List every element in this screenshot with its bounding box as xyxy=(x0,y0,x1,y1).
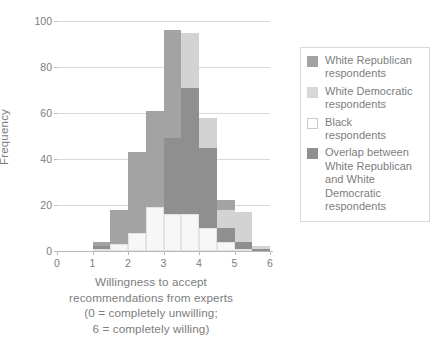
x-tick-mark xyxy=(199,251,200,255)
legend-label-line: respondents xyxy=(325,200,412,213)
chart-figure: Frequency 100806040200 0123456 Willingne… xyxy=(0,0,436,362)
y-tick-label: 100 xyxy=(20,16,52,26)
x-tick-mark xyxy=(128,251,129,255)
gridline xyxy=(57,21,270,22)
legend-item[interactable]: White Republicanrespondents xyxy=(305,54,425,81)
legend-swatch-icon xyxy=(307,148,318,159)
x-tick-label: 4 xyxy=(189,257,209,269)
y-tick-label: 20 xyxy=(20,200,52,210)
legend-item[interactable]: Blackrespondents xyxy=(305,116,425,143)
legend-label-line: respondents xyxy=(325,129,386,142)
histogram-bar xyxy=(199,228,217,251)
histogram-bar xyxy=(128,233,146,251)
legend-label-line: respondents xyxy=(325,67,412,80)
legend-item[interactable]: White Democraticrespondents xyxy=(305,85,425,112)
y-tick-text: 0 xyxy=(24,246,52,256)
histogram-bar xyxy=(217,242,235,251)
x-tick-label: 0 xyxy=(47,257,67,269)
legend-label-line: White Republican xyxy=(325,160,412,173)
y-tick-text: 60 xyxy=(24,108,52,118)
legend-item-label: White Republicanrespondents xyxy=(325,54,412,81)
y-tick-label: 80 xyxy=(20,62,52,72)
x-tick-label: 5 xyxy=(225,257,245,269)
y-axis-title: Frequency xyxy=(0,92,10,182)
y-tick-text: 20 xyxy=(24,200,52,210)
legend-item-label: Overlap betweenWhite Republicanand White… xyxy=(325,146,412,213)
x-tick-label: 2 xyxy=(118,257,138,269)
x-tick-label: 6 xyxy=(260,257,280,269)
y-tick-text: 80 xyxy=(24,62,52,72)
x-tick-mark xyxy=(57,251,58,255)
legend-label-line: White Republican xyxy=(325,54,412,67)
histogram-bar xyxy=(110,244,128,251)
legend-label-line: Black xyxy=(325,116,386,129)
legend-swatch-icon xyxy=(307,87,318,98)
legend-label-line: Overlap between xyxy=(325,146,412,159)
chart-legend: White RepublicanrespondentsWhite Democra… xyxy=(300,47,430,222)
x-caption-line: 6 = completely willing) xyxy=(22,321,280,337)
histogram-bar xyxy=(181,214,199,251)
x-tick-label: 1 xyxy=(83,257,103,269)
legend-item[interactable]: Overlap betweenWhite Republicanand White… xyxy=(305,146,425,213)
y-tick-label: 60 xyxy=(20,108,52,118)
y-tick-text: 40 xyxy=(24,154,52,164)
legend-swatch-icon xyxy=(307,56,318,67)
plot-area xyxy=(57,21,270,251)
histogram-bar xyxy=(164,214,182,251)
x-axis-caption: Willingness to acceptrecommendations fro… xyxy=(22,274,280,336)
x-caption-line: recommendations from experts xyxy=(22,290,280,306)
legend-label-line: White Democratic xyxy=(325,85,413,98)
x-axis-line xyxy=(57,251,273,252)
x-tick-label: 3 xyxy=(154,257,174,269)
histogram-bar xyxy=(146,207,164,251)
legend-swatch-icon xyxy=(307,118,318,129)
legend-label-line: and White xyxy=(325,173,412,186)
x-caption-line: Willingness to accept xyxy=(22,274,280,290)
y-tick-label: 40 xyxy=(20,154,52,164)
y-tick-label: 0 xyxy=(20,246,52,256)
x-tick-mark xyxy=(164,251,165,255)
x-caption-line: (0 = completely unwilling; xyxy=(22,305,280,321)
legend-label-line: Democratic xyxy=(325,187,412,200)
x-tick-mark xyxy=(270,251,271,255)
x-tick-mark xyxy=(93,251,94,255)
legend-item-label: White Democraticrespondents xyxy=(325,85,413,112)
x-tick-mark xyxy=(235,251,236,255)
legend-item-label: Blackrespondents xyxy=(325,116,386,143)
legend-label-line: respondents xyxy=(325,98,413,111)
y-tick-text: 100 xyxy=(24,16,52,26)
